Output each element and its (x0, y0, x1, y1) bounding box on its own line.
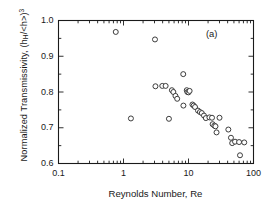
x-tick-label: 100 (234, 168, 274, 178)
data-point (187, 88, 192, 93)
data-point (210, 115, 215, 120)
data-point (153, 84, 158, 89)
data-point (228, 135, 233, 140)
data-point (217, 115, 222, 120)
data-point (166, 116, 171, 121)
data-point (237, 140, 242, 145)
y-tick-label: 0.8 (28, 88, 54, 97)
data-point (242, 140, 247, 145)
data-point (163, 83, 168, 88)
data-point (113, 29, 118, 34)
data-point (128, 116, 133, 121)
data-point (213, 124, 218, 129)
y-tick-label: 0.7 (28, 123, 54, 132)
data-point (175, 96, 180, 101)
y-tick-label: 0.9 (28, 52, 54, 61)
data-point (238, 153, 243, 158)
y-tick-label: 0.6 (28, 159, 54, 168)
x-tick-label: 0.1 (39, 168, 79, 178)
data-points (113, 29, 246, 157)
figure-panel-a: Normalized Transmissivity, (hH/<h>)3 Rey… (0, 0, 273, 210)
data-point (181, 103, 186, 108)
data-point (214, 130, 219, 135)
plot-area (0, 0, 273, 210)
data-point (226, 127, 231, 132)
y-tick-label: 1.0 (28, 16, 54, 25)
data-point (152, 37, 157, 42)
data-point (181, 72, 186, 77)
x-tick-label: 1 (104, 168, 144, 178)
x-tick-label: 10 (169, 168, 209, 178)
